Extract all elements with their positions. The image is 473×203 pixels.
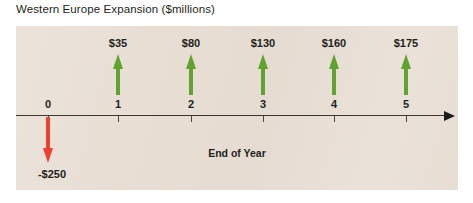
tick-mark [263, 116, 264, 122]
inflow-value-label: $35 [83, 37, 153, 49]
page-title: Western Europe Expansion ($millions) [16, 3, 215, 15]
axis-caption: End of Year [16, 147, 458, 159]
inflow-value-label: $160 [299, 37, 369, 49]
plot-panel: 0 1 2 3 4 5 $35 $80 $130 $160 $175 [16, 26, 458, 190]
timeline-axis [16, 115, 448, 116]
arrow-up-shaft [404, 68, 408, 95]
arrow-up-shaft [116, 68, 120, 95]
arrow-up-icon [186, 54, 196, 69]
tick-mark [191, 116, 192, 122]
cash-flow-diagram: Western Europe Expansion ($millions) 0 1… [0, 0, 473, 203]
arrow-up-icon [258, 54, 268, 69]
tick-mark [118, 116, 119, 122]
tick-mark [406, 116, 407, 122]
outflow-value-label: -$250 [12, 168, 92, 180]
inflow-value-label: $130 [228, 37, 298, 49]
arrow-up-shaft [189, 68, 193, 95]
tick-label-year-2: 2 [171, 98, 211, 110]
arrow-up-shaft [332, 68, 336, 95]
arrow-up-icon [113, 54, 123, 69]
tick-mark [334, 116, 335, 122]
arrow-down-shaft [46, 117, 50, 150]
inflow-value-label: $80 [156, 37, 226, 49]
tick-label-year-3: 3 [243, 98, 283, 110]
arrow-up-shaft [261, 68, 265, 95]
arrow-up-icon [329, 54, 339, 69]
tick-label-year-1: 1 [98, 98, 138, 110]
tick-label-year-4: 4 [314, 98, 354, 110]
axis-arrow-icon [444, 111, 455, 121]
tick-label-year-0: 0 [28, 98, 68, 110]
tick-label-year-5: 5 [386, 98, 426, 110]
inflow-value-label: $175 [371, 37, 441, 49]
arrow-up-icon [401, 54, 411, 69]
